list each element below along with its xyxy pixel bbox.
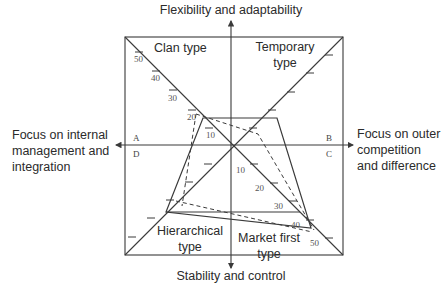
axis-label-top: Flexibility and adaptability — [150, 2, 312, 18]
dashed-profile — [176, 114, 314, 232]
quadrant-clan-type: Clan type — [154, 40, 207, 56]
axis-label-right: Focus on outer competition and differenc… — [357, 126, 440, 174]
tick-40-lr: 40 — [291, 220, 301, 230]
competing-values-framework-diagram: 50 40 30 20 10 10 20 30 40 50 A D B C Fl… — [0, 0, 446, 294]
tick-50-ul: 50 — [134, 54, 144, 64]
quadrant-market-first-type: Market first type — [230, 230, 308, 262]
letter-a: A — [133, 133, 140, 143]
axis-label-bottom: Stability and control — [150, 268, 312, 284]
tick-20-ul: 20 — [187, 112, 197, 122]
tick-20-lr: 20 — [255, 183, 265, 193]
tick-10-ul: 10 — [206, 130, 216, 140]
tick-50-lr: 50 — [310, 238, 320, 248]
tick-30-ul: 30 — [168, 93, 178, 103]
letter-b: B — [326, 133, 332, 143]
letter-d: D — [133, 149, 140, 159]
tick-30-lr: 30 — [274, 201, 284, 211]
axis-label-left: Focus on internal management and integra… — [12, 127, 109, 175]
tick-40-ul: 40 — [151, 73, 161, 83]
tick-10-lr: 10 — [236, 165, 246, 175]
ticks-upper-left — [135, 52, 213, 128]
quadrant-temporary-type: Temporary type — [240, 39, 330, 71]
quadrant-hierarchical-type: Hierarchical type — [150, 223, 230, 255]
letter-c: C — [326, 149, 332, 159]
